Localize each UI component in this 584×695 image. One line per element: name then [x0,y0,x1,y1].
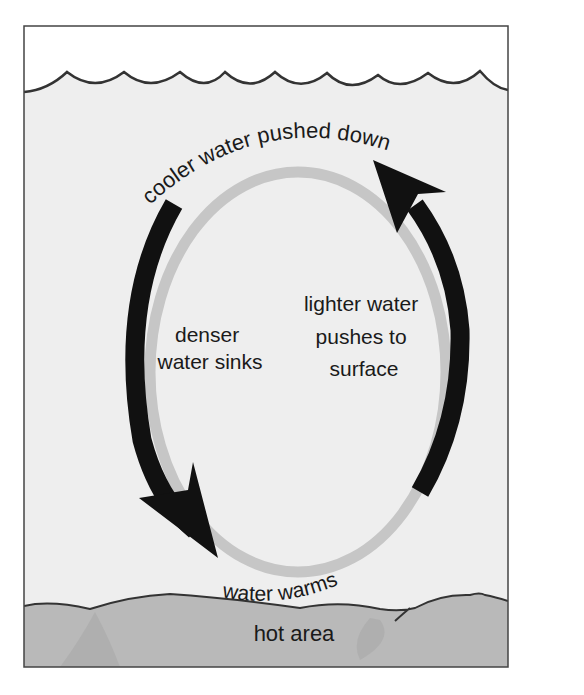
water-body [24,71,508,667]
label-hot-area: hot area [254,621,335,646]
convection-diagram: cooler water pushed down water warms den… [0,0,584,695]
